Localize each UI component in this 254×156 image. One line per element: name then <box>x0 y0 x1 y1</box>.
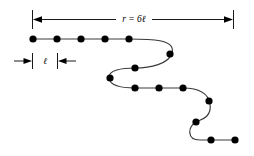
chain-beads <box>29 35 238 143</box>
bead <box>166 50 173 57</box>
end-to-end-dimension: r = 6ℓ <box>33 10 234 29</box>
bead <box>77 35 84 42</box>
segment-length-dimension: ℓ <box>14 53 76 69</box>
bead <box>131 64 138 71</box>
bead <box>53 35 60 42</box>
bead <box>131 84 138 91</box>
bead <box>125 35 132 42</box>
bead <box>106 74 113 81</box>
bead <box>155 84 162 91</box>
bead <box>192 118 199 125</box>
segment-arrowhead-right-icon <box>24 58 33 64</box>
bead <box>205 97 212 104</box>
arrowhead-left-icon <box>33 16 42 22</box>
bead <box>207 136 214 143</box>
bead <box>231 136 238 143</box>
bead <box>179 84 186 91</box>
bead <box>29 35 36 42</box>
segment-length-label: ℓ <box>43 56 47 66</box>
segment-arrowhead-left-icon <box>58 58 67 64</box>
bead <box>101 35 108 42</box>
figure-canvas: r = 6ℓ ℓ <box>0 0 254 156</box>
arrowhead-right-icon <box>224 16 233 22</box>
polymer-chain-figure: r = 6ℓ ℓ <box>0 0 254 156</box>
end-to-end-label: r = 6ℓ <box>122 14 146 24</box>
